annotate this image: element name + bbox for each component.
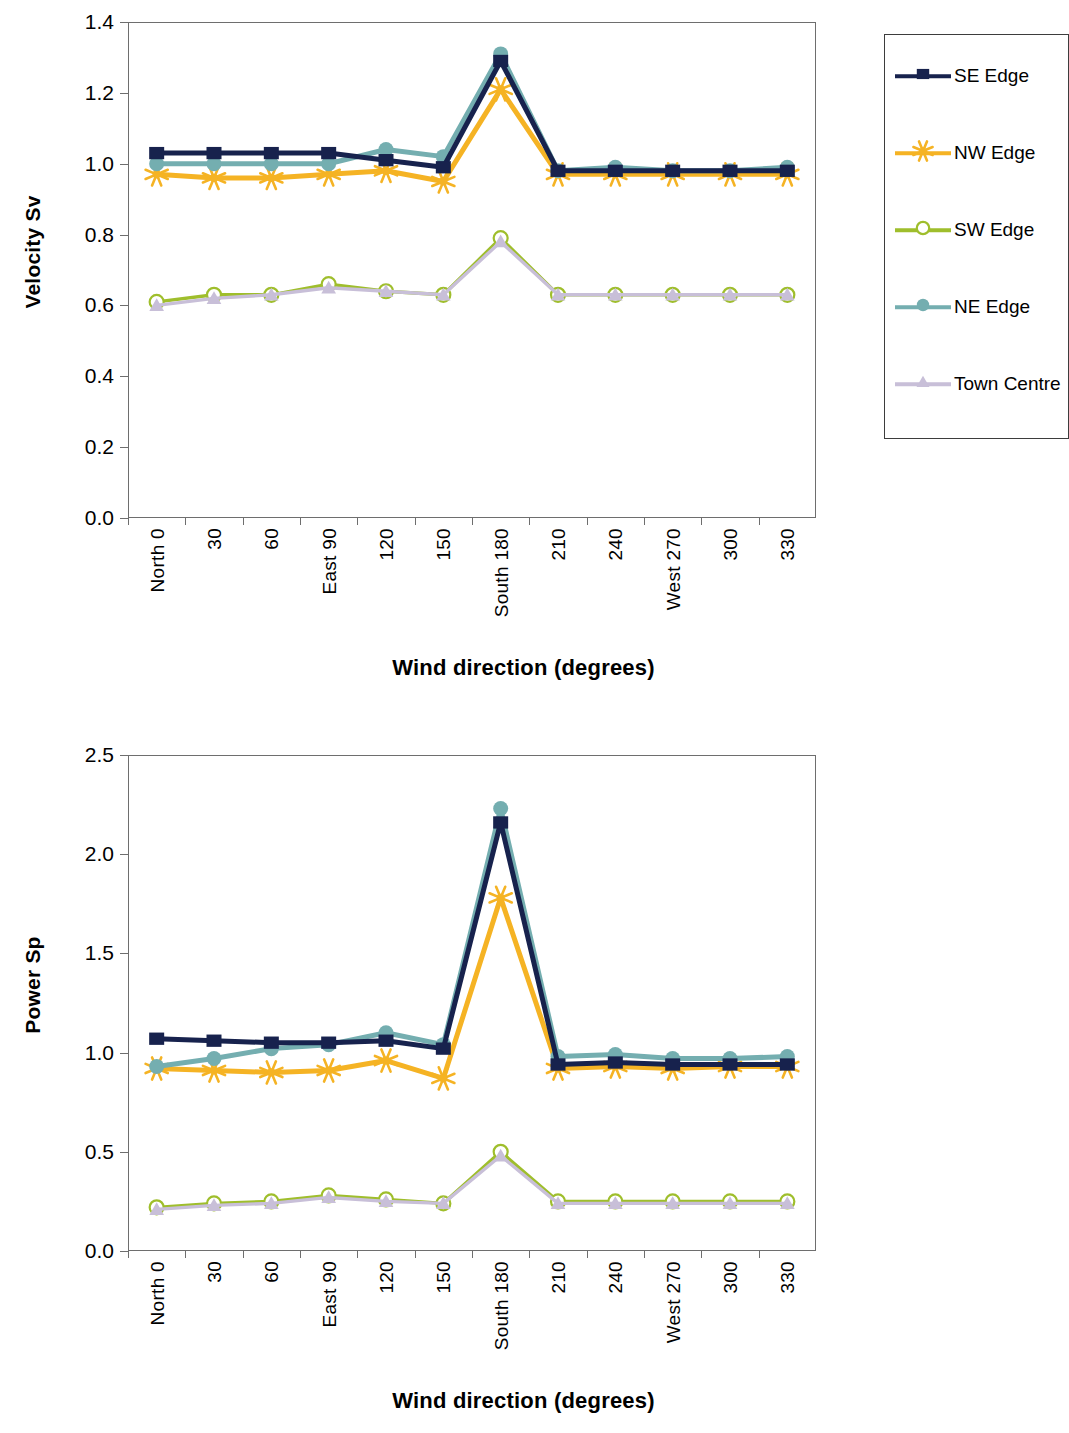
power-chart: Power Sp 0.00.51.01.52.02.5 North 03060E… [0, 733, 1047, 1433]
square-marker [723, 1058, 738, 1070]
square-marker [551, 165, 566, 177]
x-tick-label: North 0 [147, 528, 169, 592]
x-tick-label: South 180 [491, 1261, 513, 1350]
x-tick-mark [644, 518, 645, 525]
y-tick-mark [120, 755, 128, 756]
x-tick-label: West 270 [663, 528, 685, 610]
square-marker [780, 1058, 795, 1070]
y-tick-mark [120, 164, 128, 165]
y-tick-label: 0.0 [0, 506, 114, 530]
y-tick-label: 0.6 [0, 293, 114, 317]
y-tick-mark [120, 953, 128, 954]
x-tick-mark [243, 518, 244, 525]
square-marker [608, 1056, 623, 1068]
chart-2-y-axis-title: Power Sp [21, 860, 45, 1110]
x-tick-label: 210 [548, 528, 570, 561]
y-tick-mark [120, 1152, 128, 1153]
x-tick-label: 150 [433, 528, 455, 561]
legend-item-1[interactable]: NW Edge [895, 140, 1035, 166]
circle-marker [149, 1059, 164, 1074]
square-marker [207, 1035, 222, 1047]
triangle-marker [916, 376, 929, 387]
chart-2-x-axis-title: Wind direction (degrees) [0, 1388, 1047, 1414]
x-tick-mark [300, 518, 301, 525]
square-marker [436, 161, 451, 173]
square-marker [780, 165, 795, 177]
x-tick-label: East 90 [319, 528, 341, 595]
velocity-chart: Velocity Sv 0.00.20.40.60.81.01.21.4 Nor… [0, 0, 1047, 700]
y-tick-label: 0.4 [0, 364, 114, 388]
open-circle-marker [917, 222, 929, 234]
x-tick-mark [701, 1251, 702, 1258]
circle-marker [910, 292, 936, 318]
x-tick-mark [472, 518, 473, 525]
x-tick-mark [529, 518, 530, 525]
square-marker [910, 61, 936, 87]
chart-1-x-axis-title: Wind direction (degrees) [0, 655, 1047, 681]
square-marker [379, 1035, 394, 1047]
x-tick-label: 300 [720, 1261, 742, 1294]
square-marker [665, 1058, 680, 1070]
legend-label-4: Town Centre [951, 373, 1061, 395]
legend-item-3[interactable]: NE Edge [895, 294, 1030, 320]
x-tick-mark [185, 1251, 186, 1258]
x-tick-mark [529, 1251, 530, 1258]
square-marker [551, 1058, 566, 1070]
y-tick-label: 0.5 [0, 1140, 114, 1164]
series-nw-edge [146, 78, 799, 192]
y-tick-label: 0.2 [0, 435, 114, 459]
open-circle-marker [910, 215, 936, 241]
y-tick-mark [120, 235, 128, 236]
y-tick-mark [120, 22, 128, 23]
y-tick-mark [120, 376, 128, 377]
x-tick-label: 240 [605, 1261, 627, 1294]
x-tick-mark [587, 518, 588, 525]
circle-marker [917, 299, 929, 311]
legend-item-0[interactable]: SE Edge [895, 63, 1029, 89]
x-tick-mark [415, 1251, 416, 1258]
x-tick-mark [644, 1251, 645, 1258]
x-tick-mark [759, 518, 760, 525]
series-town-centre [149, 235, 794, 312]
x-tick-mark [357, 518, 358, 525]
x-tick-label: East 90 [319, 1261, 341, 1328]
x-tick-label: 150 [433, 1261, 455, 1294]
y-tick-mark [120, 1053, 128, 1054]
x-tick-label: 120 [376, 528, 398, 561]
series-se-edge [149, 55, 795, 177]
square-marker [149, 1033, 164, 1045]
x-tick-label: 330 [777, 528, 799, 561]
y-tick-mark [120, 447, 128, 448]
x-tick-mark [243, 1251, 244, 1258]
legend-swatch-1 [895, 140, 951, 166]
square-marker [723, 165, 738, 177]
series-se-edge [149, 816, 795, 1070]
x-tick-label: West 270 [663, 1261, 685, 1343]
y-tick-label: 2.0 [0, 842, 114, 866]
x-tick-mark [587, 1251, 588, 1258]
square-marker [493, 55, 508, 67]
x-tick-label: 30 [204, 528, 226, 550]
legend-swatch-0 [895, 63, 951, 89]
x-tick-mark [128, 518, 129, 525]
series-town-centre [149, 1149, 794, 1215]
circle-marker [493, 801, 508, 816]
star-marker [910, 138, 936, 164]
y-tick-label: 2.5 [0, 743, 114, 767]
y-tick-label: 1.2 [0, 81, 114, 105]
x-tick-label: 60 [261, 1261, 283, 1283]
square-marker [321, 1037, 336, 1049]
square-marker [493, 816, 508, 828]
y-tick-label: 0.0 [0, 1239, 114, 1263]
triangle-marker [910, 369, 936, 395]
legend: SE Edge NW Edge SW Edge NE Edge [884, 34, 1069, 439]
square-marker [665, 165, 680, 177]
y-tick-mark [120, 1251, 128, 1252]
y-tick-label: 1.4 [0, 10, 114, 34]
legend-item-2[interactable]: SW Edge [895, 217, 1034, 243]
legend-swatch-3 [895, 294, 951, 320]
square-marker [608, 165, 623, 177]
x-tick-label: South 180 [491, 528, 513, 617]
legend-item-4[interactable]: Town Centre [895, 371, 1061, 397]
x-tick-label: 60 [261, 528, 283, 550]
